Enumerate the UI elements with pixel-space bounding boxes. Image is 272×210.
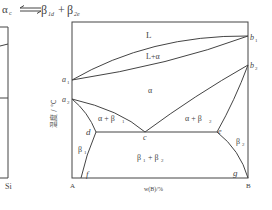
svg-text:2: 2 — [67, 100, 70, 105]
svg-text:1: 1 — [122, 119, 125, 124]
svg-text:+ β: + β — [146, 153, 159, 162]
point-a1: a — [62, 75, 66, 84]
reaction-rhs2: β — [67, 3, 73, 17]
reaction-plus: + — [58, 3, 65, 17]
solvus-e-b2 — [217, 65, 248, 132]
region-alpha: α — [148, 86, 153, 95]
solidus-curve — [72, 36, 248, 80]
svg-text:β: β — [137, 153, 141, 162]
equilibrium-arrow-icon — [20, 6, 41, 14]
reaction-lhs: α — [2, 3, 8, 15]
point-e: e — [218, 127, 222, 136]
region-liquid-alpha: L+α — [146, 52, 160, 61]
svg-text:1: 1 — [67, 80, 70, 85]
point-g: g — [233, 168, 238, 178]
region-alpha-beta2: α + β — [185, 114, 202, 123]
reaction-lhs-sub: c — [9, 10, 12, 16]
corner-label-a: A — [70, 182, 75, 190]
region-beta1: β — [78, 145, 82, 154]
si-label: Si — [5, 182, 12, 191]
liquidus-curve — [72, 36, 248, 80]
reaction-rhs1: β — [41, 3, 47, 17]
point-a2: a — [62, 95, 66, 104]
svg-text:1: 1 — [255, 38, 258, 43]
region-liquid: L — [146, 30, 152, 40]
previous-diagram-fragment: Si — [0, 27, 12, 191]
point-c: c — [143, 133, 147, 142]
region-alpha-beta1: α + β — [98, 114, 115, 123]
eutectoid-reaction-equation: α c β 1d + β 2e — [2, 3, 80, 17]
solvus-a2-d — [72, 99, 96, 132]
region-beta2: β — [236, 137, 240, 146]
y-axis-label: 温度 / ℃ — [49, 99, 58, 128]
svg-text:2: 2 — [161, 158, 164, 163]
svg-text:1: 1 — [84, 150, 87, 155]
point-b2: b — [250, 61, 254, 70]
svg-text:2: 2 — [255, 66, 258, 71]
phase-diagram: α c β 1d + β 2e Si a 1 a 2 b 1 b — [0, 0, 272, 210]
svg-text:2: 2 — [209, 119, 212, 124]
point-b1: b — [250, 33, 254, 42]
point-d: d — [86, 127, 91, 137]
region-beta1-beta2: β 1 + β 2 — [137, 153, 164, 163]
svg-text:2: 2 — [242, 142, 245, 147]
reaction-rhs1-sub: 1d — [48, 11, 55, 17]
corner-label-b: B — [246, 182, 251, 190]
x-axis-label: w(B)/% — [144, 186, 163, 193]
reaction-rhs2-sub: 2e — [74, 11, 80, 17]
